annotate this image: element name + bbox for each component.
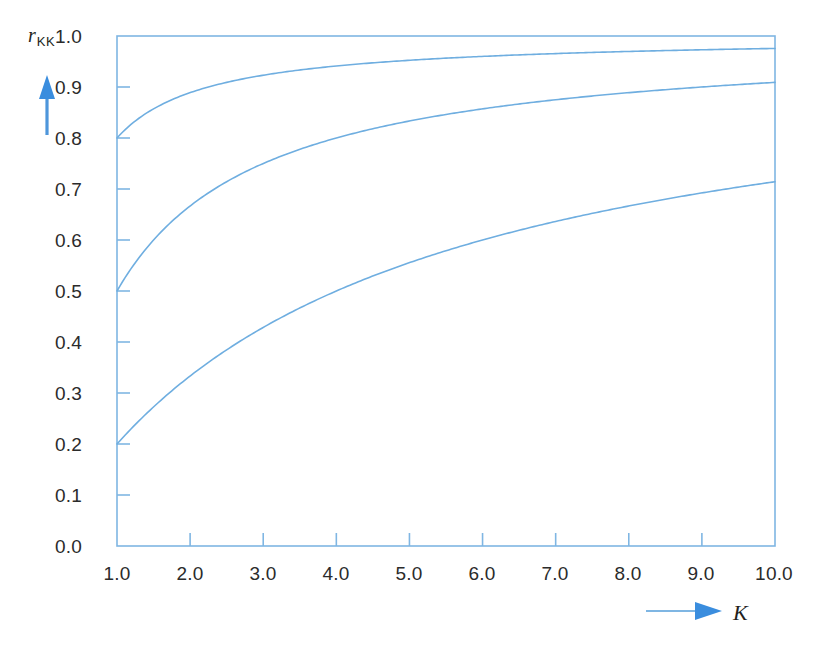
- plot-area: [0, 0, 823, 655]
- chart-figure: rKK K 1.0 0.9 0.8 0.7 0.6 0.5 0.4 0.3 0.…: [0, 0, 823, 655]
- up-arrow-icon: [39, 75, 55, 135]
- data-curves: [117, 48, 775, 444]
- x-axis-tick-marks: [190, 533, 702, 546]
- plot-frame: [117, 36, 775, 546]
- y-axis-tick-marks: [117, 87, 130, 495]
- right-arrow-icon: [646, 602, 722, 620]
